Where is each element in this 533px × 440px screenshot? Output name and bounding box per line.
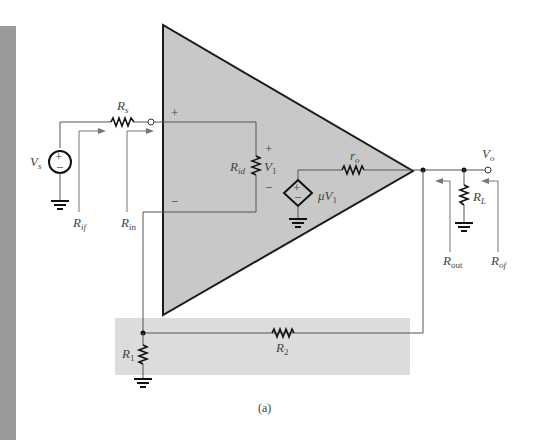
rout-arrow xyxy=(435,178,450,252)
rin-arrow xyxy=(127,128,154,212)
rof-arrow xyxy=(481,178,498,252)
rin-label: Rin xyxy=(120,215,136,232)
rout-label: Rout xyxy=(442,253,463,270)
rif-arrow xyxy=(79,128,106,212)
ground-icon xyxy=(134,379,152,387)
feedback-region xyxy=(115,318,410,375)
figure-caption: (a) xyxy=(258,401,271,415)
source-label: Vs xyxy=(30,154,42,171)
noninverting-sign: + xyxy=(171,105,178,120)
v1-minus-sign: − xyxy=(265,180,272,195)
inverting-sign: − xyxy=(171,194,178,209)
load-resistor xyxy=(460,185,468,205)
vo-label: Vo xyxy=(482,146,495,163)
dep-minus-sign: − xyxy=(294,190,301,205)
input-terminal xyxy=(148,119,154,125)
ground-icon xyxy=(455,223,473,231)
circuit-figure: + − Vs Rs + − Rid + V1 − + − μV1 ro xyxy=(0,0,533,440)
rif-label: Rif xyxy=(72,215,87,232)
rs-label: Rs xyxy=(116,98,129,115)
rl-label: RL xyxy=(472,189,486,206)
output-terminal xyxy=(485,167,491,173)
side-bar xyxy=(0,26,16,440)
v1-plus-sign: + xyxy=(265,141,272,156)
source-minus-sign: − xyxy=(56,160,63,175)
voltage-source: + − xyxy=(49,122,71,200)
rof-label: Rof xyxy=(490,253,507,270)
ground-icon xyxy=(51,201,69,209)
source-resistor xyxy=(111,118,134,126)
